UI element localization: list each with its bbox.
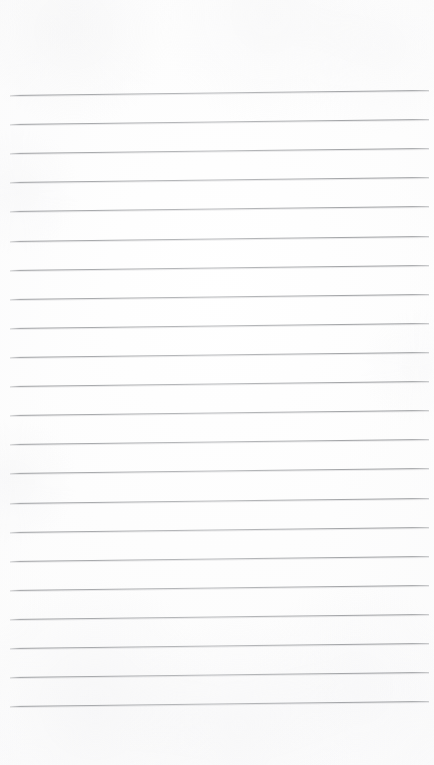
rule-line	[10, 439, 429, 445]
rule-line	[10, 352, 429, 358]
rule-line	[10, 614, 429, 620]
rule-line	[10, 468, 429, 474]
rule-line	[10, 672, 429, 678]
rule-line	[10, 381, 429, 387]
rule-line	[10, 323, 429, 329]
rule-line	[10, 294, 429, 300]
rule-line	[10, 119, 429, 125]
rule-line	[10, 410, 429, 416]
rule-line	[10, 701, 429, 707]
rule-line	[10, 90, 429, 96]
rule-line	[10, 498, 429, 504]
rule-line	[10, 585, 429, 591]
rule-line	[10, 643, 429, 649]
rule-line	[10, 177, 429, 183]
scanned-page	[0, 0, 434, 765]
rule-line	[10, 206, 429, 212]
ruled-lines-group	[0, 0, 434, 765]
rule-line	[10, 235, 429, 241]
rule-line	[10, 265, 429, 271]
rule-line	[10, 148, 429, 154]
rule-line	[10, 556, 429, 562]
rule-line	[10, 527, 429, 533]
